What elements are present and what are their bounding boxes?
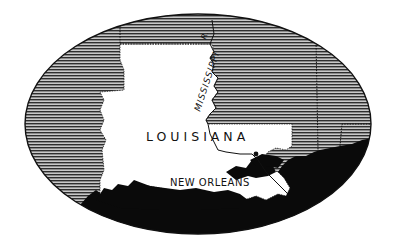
city-label: NEW ORLEANS: [170, 177, 250, 188]
louisiana-map: LOUISIANA NEW ORLEANS MISSISSIPPI R.: [0, 0, 396, 251]
state-label: LOUISIANA: [146, 129, 249, 144]
new-orleans-marker: [254, 152, 259, 157]
